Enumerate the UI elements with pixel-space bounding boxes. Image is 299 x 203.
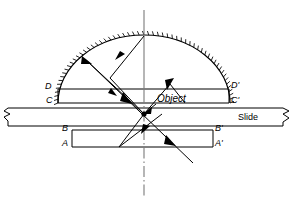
dome-hatch-tick: [95, 43, 98, 46]
dome-hatch-tick: [123, 33, 125, 37]
dome-hatch-tick: [205, 51, 206, 55]
dome-hatch-tick: [79, 53, 83, 55]
dome-hatch-tick: [70, 62, 74, 63]
object-focal-point: [141, 104, 156, 117]
optical-ray-diagram-figure: D D' C C' B B' A A' Slide Object: [0, 0, 299, 203]
dome-hatch-tick: [118, 34, 120, 38]
ray-arrow-apex-fold: [115, 51, 125, 60]
label-D-prime: D': [231, 81, 239, 90]
dome-hatch-tick: [217, 63, 219, 67]
dome-hatch-tick: [227, 81, 230, 84]
label-A: A: [62, 139, 68, 148]
dome-hatch-tick: [208, 54, 209, 58]
slide-right-break-icon: [283, 108, 289, 126]
dome-hatch-tick: [219, 67, 221, 71]
label-A-prime: A': [215, 139, 223, 148]
dome-hatch-tick: [223, 74, 226, 77]
dome-hatch-tick: [214, 60, 216, 64]
dome-hatch-tick: [132, 32, 134, 36]
label-D: D: [45, 82, 52, 91]
ray-arrow-long-diagonal-b: [164, 135, 176, 146]
dome-hatch-tick: [198, 46, 199, 50]
label-B-prime: B': [215, 124, 223, 133]
label-slide: Slide: [238, 113, 258, 122]
dome-hatch-tick: [201, 48, 202, 52]
dome-hatch-tick: [108, 37, 111, 40]
label-C: C: [46, 96, 53, 105]
dome-hatch-tick: [91, 45, 94, 48]
dome-hatch-tick: [221, 70, 224, 73]
dome-hatch-tick: [67, 66, 71, 67]
dome-hatch-tick: [73, 59, 77, 61]
dome-hatch-tick: [137, 31, 139, 35]
ray-apex-to-fold: [110, 36, 144, 78]
diagram-canvas: [0, 0, 299, 203]
label-B: B: [62, 124, 68, 133]
dome-hatch-tick: [127, 32, 129, 36]
dome-hatch-tick: [211, 57, 213, 61]
label-object: Object: [157, 94, 186, 104]
label-C-prime: C': [231, 96, 239, 105]
dome-hatch-tick: [83, 50, 87, 52]
dome-hatch-tick: [76, 56, 80, 58]
dome-hatch-tick: [65, 69, 69, 70]
dome-hatch-tick: [194, 43, 195, 47]
dome-hatch-tick: [99, 40, 102, 43]
dome-hatch-tick: [54, 103, 58, 105]
dome-hatch-tick: [104, 39, 107, 42]
dome-hatch-tick: [225, 77, 228, 80]
ray-fold-to-object: [110, 78, 144, 114]
slide-left-break-icon: [4, 108, 10, 126]
dome-hatch-tick: [62, 73, 66, 74]
dome-hatch-tick: [87, 47, 90, 50]
dome-hatch-tick: [113, 35, 116, 38]
